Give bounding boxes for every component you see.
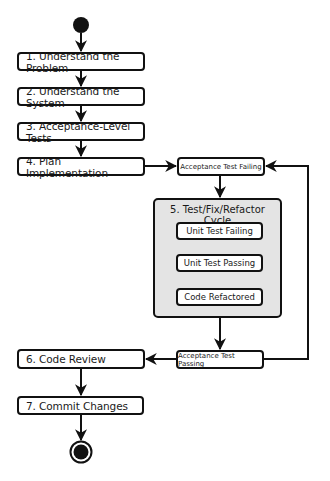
step-label: 3. Acceptance-Level Tests: [26, 120, 143, 144]
state-label: Acceptance Test Failing: [180, 163, 261, 171]
state-label: Acceptance Test Passing: [178, 352, 262, 368]
step-plan-implementation: 4. Plan Implementation: [17, 157, 145, 176]
end-node-core: [74, 445, 89, 460]
state-code-refactored: Code Refactored: [176, 288, 263, 306]
state-unit-test-passing: Unit Test Passing: [176, 254, 263, 272]
state-acceptance-test-passing: Acceptance Test Passing: [176, 350, 264, 369]
step-understand-problem: 1. Understand the Problem: [17, 52, 145, 71]
start-node: [73, 17, 89, 33]
state-label: Unit Test Failing: [186, 226, 253, 236]
step-acceptance-level-tests: 3. Acceptance-Level Tests: [17, 122, 145, 141]
step-code-review: 6. Code Review: [17, 349, 145, 369]
step-label: 7. Commit Changes: [26, 400, 128, 412]
step-label: 2. Understand the System: [26, 85, 143, 109]
state-acceptance-test-failing: Acceptance Test Failing: [177, 157, 265, 176]
state-label: Code Refactored: [184, 292, 255, 302]
step-label: 4. Plan Implementation: [26, 155, 143, 179]
step-label: 6. Code Review: [26, 353, 106, 365]
step-label: 1. Understand the Problem: [26, 50, 143, 74]
state-label: Unit Test Passing: [184, 258, 255, 268]
step-commit-changes: 7. Commit Changes: [17, 396, 144, 415]
step-understand-system: 2. Understand the System: [17, 87, 145, 106]
state-unit-test-failing: Unit Test Failing: [176, 222, 263, 240]
